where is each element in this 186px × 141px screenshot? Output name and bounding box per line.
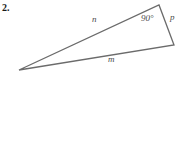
right-angle-label: 90° [141,13,154,23]
figure-canvas: 2. n m p 90° [0,0,186,141]
side-label-p: p [170,12,175,22]
side-label-n: n [92,14,97,24]
side-label-m: m [108,54,115,64]
